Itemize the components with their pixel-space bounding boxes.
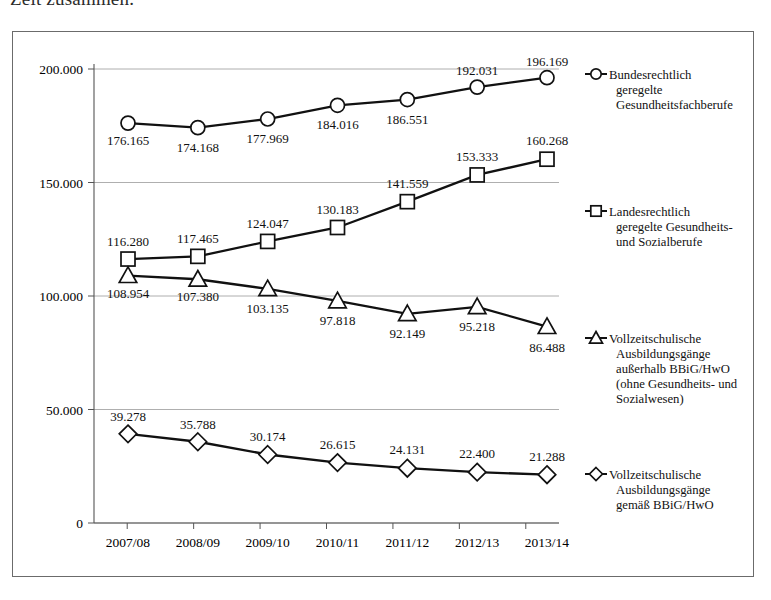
data-point-label: 186.551 bbox=[386, 112, 428, 127]
data-point-circle bbox=[331, 98, 345, 112]
data-point-label: 176.165 bbox=[107, 133, 149, 148]
data-point-diamond bbox=[189, 433, 207, 451]
data-point-circle bbox=[540, 71, 554, 85]
data-point-square bbox=[591, 206, 601, 216]
data-point-square bbox=[121, 252, 135, 266]
legend-label-line: Sozialwesen) bbox=[616, 392, 684, 406]
data-point-diamond bbox=[119, 425, 137, 443]
x-axis-tick-label: 2012/13 bbox=[455, 535, 500, 550]
y-axis-tick-label: 0 bbox=[76, 516, 83, 531]
data-point-diamond bbox=[399, 459, 417, 477]
y-axis-tick-label: 50.000 bbox=[46, 403, 83, 418]
data-point-label: 184.016 bbox=[316, 117, 359, 132]
data-point-label: 196.169 bbox=[526, 54, 568, 69]
legend-label-line: (ohne Gesundheits- und bbox=[616, 377, 738, 391]
legend-label-line: Landesrechtlich bbox=[609, 205, 691, 219]
data-point-diamond bbox=[468, 463, 486, 481]
data-point-label: 160.268 bbox=[526, 133, 568, 148]
legend-label-line: geregelte bbox=[616, 83, 663, 97]
data-point-circle bbox=[470, 80, 484, 94]
data-point-label: 177.969 bbox=[247, 131, 289, 146]
data-point-label: 86.488 bbox=[529, 340, 565, 355]
data-point-label: 192.031 bbox=[456, 63, 498, 78]
data-point-square bbox=[540, 152, 554, 166]
data-point-square bbox=[191, 249, 205, 263]
data-point-circle bbox=[591, 69, 601, 79]
data-point-label: 39.278 bbox=[110, 409, 146, 424]
legend-entry[interactable]: BundesrechtlichgeregelteGesundheitsfachb… bbox=[585, 68, 733, 112]
series-group: 108.954107.380103.13597.81892.14995.2188… bbox=[107, 267, 565, 355]
data-point-label: 30.174 bbox=[250, 429, 286, 444]
data-point-diamond bbox=[538, 466, 556, 484]
x-axis-tick-label: 2009/10 bbox=[246, 535, 291, 550]
data-point-label: 26.615 bbox=[320, 437, 356, 452]
data-point-diamond bbox=[329, 454, 347, 472]
legend-label-line: Bundesrechtlich bbox=[609, 68, 692, 82]
data-point-label: 21.288 bbox=[529, 449, 565, 464]
data-point-circle bbox=[191, 121, 205, 135]
legend-label-line: Vollzeitschulische bbox=[609, 468, 701, 482]
data-point-square bbox=[470, 168, 484, 182]
data-point-label: 174.168 bbox=[177, 140, 219, 155]
data-point-label: 95.218 bbox=[459, 319, 495, 334]
legend-label-line: außerhalb BBiG/HwO bbox=[616, 362, 730, 376]
x-axis-tick-label: 2008/09 bbox=[176, 535, 221, 550]
data-point-label: 117.465 bbox=[177, 231, 219, 246]
legend-label-line: Gesundheitsfachberufe bbox=[616, 98, 733, 112]
data-point-square bbox=[331, 220, 345, 234]
data-point-label: 130.183 bbox=[316, 202, 358, 217]
data-point-label: 24.131 bbox=[389, 442, 425, 457]
x-axis-tick-label: 2007/08 bbox=[106, 535, 151, 550]
legend-entry[interactable]: VollzeitschulischeAusbildungsgängegemäß … bbox=[585, 468, 714, 513]
x-axis-tick-label: 2013/14 bbox=[525, 535, 570, 550]
data-point-label: 116.280 bbox=[107, 234, 149, 249]
data-point-square bbox=[261, 234, 275, 248]
figure-frame: 050.000100.000150.000200.0002007/082008/… bbox=[12, 31, 754, 577]
data-point-label: 35.788 bbox=[180, 417, 216, 432]
legend-label-line: gemäß BBiG/HwO bbox=[616, 498, 714, 512]
legend-entry[interactable]: Landesrechtlichgeregelte Gesundheits-und… bbox=[585, 205, 733, 249]
cut-off-heading-text: Zeit zusammen. bbox=[10, 0, 134, 10]
legend-entry[interactable]: VollzeitschulischeAusbildungsgängeaußerh… bbox=[585, 332, 738, 407]
data-point-circle bbox=[400, 93, 414, 107]
y-axis-tick-label: 100.000 bbox=[39, 289, 83, 304]
data-point-square bbox=[400, 195, 414, 209]
data-point-label: 153.333 bbox=[456, 149, 498, 164]
data-point-diamond bbox=[259, 446, 276, 464]
data-point-label: 97.818 bbox=[320, 313, 356, 328]
data-point-label: 107.380 bbox=[177, 289, 219, 304]
y-axis-tick-label: 150.000 bbox=[39, 176, 83, 191]
legend-label-line: und Sozialberufe bbox=[616, 235, 703, 249]
series-group: 39.27835.78830.17426.61524.13122.40021.2… bbox=[110, 409, 565, 484]
data-point-label: 141.559 bbox=[386, 176, 428, 191]
data-point-triangle bbox=[119, 267, 137, 283]
x-axis-tick-label: 2010/11 bbox=[316, 535, 360, 550]
data-point-label: 124.047 bbox=[247, 216, 290, 231]
data-point-label: 22.400 bbox=[459, 446, 495, 461]
line-chart: 050.000100.000150.000200.0002007/082008/… bbox=[13, 32, 753, 576]
data-point-circle bbox=[121, 116, 135, 130]
data-point-triangle bbox=[468, 298, 486, 314]
legend-label-line: Ausbildungsgänge bbox=[616, 347, 711, 361]
data-point-label: 108.954 bbox=[107, 286, 150, 301]
data-point-diamond bbox=[590, 468, 603, 481]
legend-label-line: Vollzeitschulische bbox=[609, 332, 701, 346]
data-point-label: 92.149 bbox=[389, 326, 425, 341]
data-point-label: 103.135 bbox=[247, 301, 289, 316]
legend-label-line: geregelte Gesundheits- bbox=[616, 220, 733, 234]
data-point-circle bbox=[261, 112, 275, 126]
legend-label-line: Ausbildungsgänge bbox=[616, 483, 711, 497]
y-axis-tick-label: 200.000 bbox=[39, 62, 83, 77]
x-axis-tick-label: 2011/12 bbox=[385, 535, 429, 550]
